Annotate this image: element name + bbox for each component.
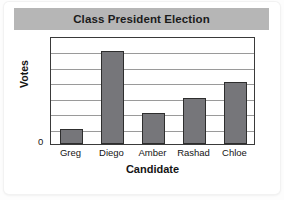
chart-card: Class President Election Votes 0 GregDie… [0, 0, 284, 200]
x-tick-label: Amber [132, 147, 173, 158]
bar [60, 129, 83, 144]
x-axis-tick-labels: GregDiegoAmberRashadChloe [50, 147, 255, 161]
bar [101, 51, 124, 144]
x-tick-label: Greg [50, 147, 91, 158]
bar [142, 113, 165, 144]
x-tick-label: Rashad [173, 147, 214, 158]
bar [224, 82, 247, 144]
x-axis-title: Candidate [50, 163, 255, 175]
bar [183, 98, 206, 144]
bar-chart: Votes 0 GregDiegoAmberRashadChloe Candid… [0, 0, 284, 200]
x-tick-label: Diego [91, 147, 132, 158]
x-tick-label: Chloe [214, 147, 255, 158]
y-axis-zero-tick-label: 0 [38, 137, 43, 147]
plot-area [50, 37, 255, 145]
y-axis-title: Votes [18, 44, 30, 104]
bar-series [51, 38, 254, 144]
